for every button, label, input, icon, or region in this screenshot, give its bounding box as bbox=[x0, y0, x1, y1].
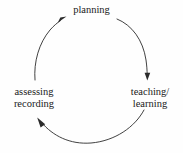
arrow-teaching-to-assessing bbox=[42, 110, 145, 143]
arrow-assessing-to-planning bbox=[35, 21, 61, 80]
arrowhead-down-teaching bbox=[145, 73, 151, 81]
node-label-assessing-recording-line-2: recording bbox=[2, 98, 66, 110]
node-label-teaching-learning-line-1: teaching/ bbox=[118, 86, 182, 98]
cycle-arrows-graphic bbox=[0, 0, 183, 153]
node-label-teaching-learning: teaching/ learning bbox=[118, 86, 182, 109]
arrow-planning-to-teaching bbox=[117, 19, 147, 75]
node-label-assessing-recording-line-1: assessing bbox=[2, 86, 66, 98]
node-label-planning-line-1: planning bbox=[0, 4, 183, 16]
arrowhead-upleft-assessing bbox=[37, 117, 45, 127]
node-label-teaching-learning-line-2: learning bbox=[118, 98, 182, 110]
node-label-assessing-recording: assessing recording bbox=[2, 86, 66, 109]
cycle-diagram: planning teaching/ learning assessing re… bbox=[0, 0, 183, 153]
node-label-planning: planning bbox=[0, 4, 183, 16]
